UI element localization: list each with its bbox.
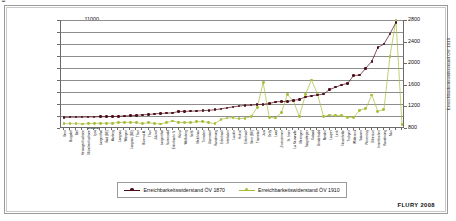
x-axis-label: Bern [64,130,67,137]
x-axis-label: Sefik [191,130,194,137]
x-axis-label: Zweisimmen [281,130,284,147]
legend-item[interactable]: Erreichbarkeitswiderstand ÖV 1870 [124,187,225,193]
x-axis-labels: BernBurgdorfBielHerzogenbuchseeMünchenbu… [60,130,404,176]
x-axis-label: Langenthal [100,130,103,145]
legend-label: Erreichbarkeitswiderstand ÖV 1910 [258,187,340,193]
legend-item[interactable]: Erreichbarkeitswiderstand ÖV 1910 [239,187,340,193]
x-axis-label: Bern (BE) [251,130,254,144]
x-axis-label: Erlenbach [245,130,248,144]
x-axis-label: St. Imier [288,130,291,142]
x-axis-label: Wilderswil [354,130,357,144]
x-axis-label: Laufen [233,130,236,139]
x-axis-label: Interlaken [227,130,230,144]
y-tick-label-right: 1200 [408,103,420,108]
legend-label: Erreichbarkeitswiderstand ÖV 1870 [143,187,225,193]
x-axis-label: Lauper [330,130,333,140]
x-axis-label: Wangen [125,130,128,141]
y-tick-mark-right [404,128,407,129]
x-axis-label: Gstaad [312,130,315,140]
y-axis-left-title: Erreichbarkeitswiderstand ÖV 1870 [1,0,6,20]
x-axis-label: Neuenfelde [342,130,345,146]
x-axis-label: Trimstein [203,130,206,143]
credit-label: FLURY 2008 [397,202,435,208]
chart-legend: Erreichbarkeitswiderstand ÖV 1870Erreich… [117,182,347,198]
y-tick-mark-right [404,85,407,86]
x-axis-label: Lenk [336,130,339,137]
x-axis-label: Thun [137,130,140,137]
x-axis-label: Huttwil [239,130,242,139]
x-axis-label: Kandersteg [384,130,387,146]
x-axis-label: Laax [275,130,278,137]
y-tick-label-right: 2800 [408,17,420,22]
x-axis-label: Biel [76,130,79,135]
x-axis-label: Saanen [360,130,363,141]
x-axis-label: Melchnau [197,130,200,143]
plot-area [60,20,404,128]
x-axis-label: Bad (BE) [106,130,109,143]
y-tick-label-right: 1600 [408,82,420,87]
x-axis-label: Saignelégier [306,130,309,147]
x-axis-label: Meiden [324,130,327,140]
x-axis-label: Herzogenbuchsee [82,130,85,155]
x-axis-label: Erlenbach i.S. [173,130,176,149]
x-axis-label: Utzenstorf [209,130,212,144]
y-tick-label-right: 2000 [408,60,420,65]
x-axis-label: Trubgen [348,130,351,141]
x-axis-label: Biberzurt [372,130,375,142]
y-tick-mark-right [404,42,407,43]
x-axis-label: Porrentruy [366,130,369,144]
x-axis-label: Aarberg [112,130,115,141]
x-axis-label: Lyss [94,130,97,136]
x-axis-label: Langnau [119,130,122,142]
series-line [64,23,396,118]
x-axis-label: Grindelwald [318,130,321,146]
legend-swatch-marker [245,188,248,191]
x-axis-label: Tramelan [257,130,260,143]
legend-swatch-line [124,190,140,191]
y-axis-right-title: Erreichbarkeitswiderstand ÖV 1910 [446,20,451,128]
x-tick-mark [395,128,396,130]
x-axis-label: Köniz [179,130,182,138]
x-axis-label: Delly [269,130,272,137]
x-axis-label: Zäziwil [155,130,158,139]
y-tick-label-right: 800 [408,125,417,130]
y-tick-label-right: 2400 [408,39,420,44]
x-axis-label: Langnau (BE) [131,130,134,149]
x-axis-label: Thun [149,130,152,137]
x-axis-label: Wolfisberg [185,130,188,145]
figure-frame: Erreichbarkeitswiderstand ÖV 1870 Erreic… [4,5,448,214]
x-axis-label: Münchenbuchsee [88,130,91,154]
x-axis-label: Muri [390,130,393,136]
x-axis-label: Erlenbach [221,130,224,144]
x-tick-mark [401,128,402,130]
legend-swatch-marker [130,188,133,191]
x-axis-label: Jura [263,130,266,136]
legend-swatch-line [239,190,255,191]
series-line [64,20,402,124]
x-axis-label: Langenthal [161,130,164,145]
y-tick-mark-left [57,128,60,129]
x-axis-label: Sumiswald [167,130,170,145]
x-axis-label: Büren a.A. [143,130,146,145]
y-tick-mark-right [404,63,407,64]
y-tick-mark-right [404,20,407,21]
x-axis-label: Meiringen [300,130,303,144]
y-tick-mark-right [404,106,407,107]
x-axis-label: La Neuveville [294,130,297,149]
x-axis-label: Burgdorf [70,130,73,142]
x-axis-label: Innertkirchen [378,130,381,148]
x-axis-label: Kandersteg [215,130,218,146]
